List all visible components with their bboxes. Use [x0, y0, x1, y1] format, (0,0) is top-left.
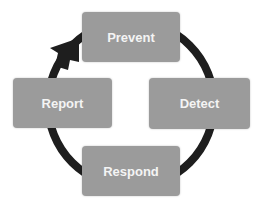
stage-prevent-label: Prevent	[107, 30, 155, 45]
stage-respond: Respond	[82, 146, 180, 196]
stage-detect-label: Detect	[180, 96, 220, 111]
stage-detect: Detect	[149, 78, 250, 129]
stage-report: Report	[13, 78, 112, 128]
stage-report-label: Report	[42, 96, 84, 111]
stage-prevent: Prevent	[82, 12, 180, 62]
stage-respond-label: Respond	[103, 164, 159, 179]
